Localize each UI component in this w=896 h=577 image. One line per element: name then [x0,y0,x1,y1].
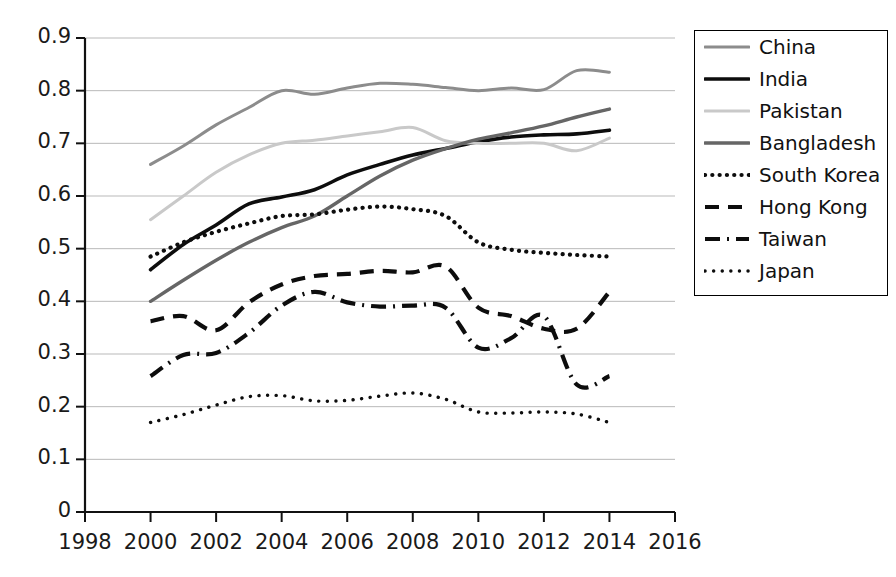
x-tick-label: 2016 [635,530,715,554]
axis-lines [85,38,675,512]
legend-item-label: Bangladesh [759,133,876,153]
legend-item-label: South Korea [759,165,880,185]
legend-item-pakistan[interactable]: Pakistan [695,95,887,127]
y-tick-label: 0.4 [38,287,71,311]
series-line-china [151,70,610,165]
chart-figure: 00.10.20.30.40.50.60.70.80.9 19982000200… [0,0,896,577]
legend-item-label: China [759,37,816,57]
series-line-hong-kong [151,265,610,332]
axis-ticks [76,38,675,522]
legend-item-label: Pakistan [759,101,843,121]
y-tick-label: 0.2 [38,393,71,417]
legend-item-label: India [759,69,808,89]
series-line-bangladesh [151,109,610,301]
legend-item-label: Hong Kong [759,197,868,217]
legend-item-china[interactable]: China [695,31,887,63]
y-tick-label: 0.5 [38,235,71,259]
series-line-japan [151,393,610,423]
legend-item-label: Japan [759,261,815,281]
legend-item-hong-kong[interactable]: Hong Kong [695,191,887,223]
series-line-taiwan [151,292,610,388]
legend-line-swatch-icon [704,71,750,87]
legend-item-india[interactable]: India [695,63,887,95]
legend: ChinaIndiaPakistanBangladeshSouth KoreaH… [694,30,888,296]
legend-line-swatch-icon [704,231,750,247]
y-tick-label: 0.3 [38,340,71,364]
legend-line-swatch-icon [704,167,750,183]
legend-item-japan[interactable]: Japan [695,255,887,287]
legend-line-swatch-icon [704,39,750,55]
legend-line-swatch-icon [704,103,750,119]
series-lines [151,70,610,423]
y-tick-label: 0 [58,498,71,522]
legend-item-south-korea[interactable]: South Korea [695,159,887,191]
legend-line-swatch-icon [704,135,750,151]
y-tick-label: 0.1 [38,445,71,469]
legend-line-swatch-icon [704,199,750,215]
y-tick-label: 0.9 [38,24,71,48]
y-tick-label: 0.6 [38,182,71,206]
legend-item-label: Taiwan [759,229,827,249]
legend-item-bangladesh[interactable]: Bangladesh [695,127,887,159]
y-tick-label: 0.8 [38,77,71,101]
y-tick-label: 0.7 [38,129,71,153]
legend-item-taiwan[interactable]: Taiwan [695,223,887,255]
series-line-pakistan [151,127,610,219]
legend-line-swatch-icon [704,263,750,279]
